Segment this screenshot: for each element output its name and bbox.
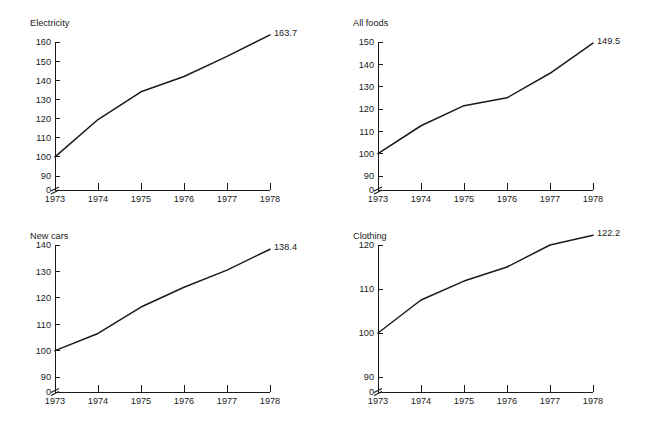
x-tick-label-all-foods-1974: 1974: [411, 194, 431, 204]
y-axis-clothing: 090100110120: [359, 240, 383, 397]
x-axis-all-foods: 197319741975197619771978: [368, 183, 603, 204]
chart-panel-new-cars: New cars 090100110120130140 197319741975…: [0, 217, 323, 433]
y-tick-label-electricity-130: 130: [36, 95, 51, 105]
x-tick-label-clothing-1976: 1976: [497, 396, 517, 406]
y-tick-label-all-foods-140: 140: [359, 60, 374, 70]
end-label-clothing: 122.2: [597, 228, 620, 238]
x-tick-label-electricity-1973: 1973: [45, 194, 65, 204]
y-tick-label-clothing-110: 110: [359, 284, 374, 294]
y-tick-label-new-cars-90: 90: [41, 372, 51, 382]
chart-title-all-foods: All foods: [353, 18, 389, 28]
y-tick-label-all-foods-90: 90: [364, 171, 374, 181]
y-tick-label-electricity-90: 90: [41, 171, 51, 181]
y-tick-label-new-cars-100: 100: [36, 346, 51, 356]
x-tick-label-clothing-1978: 1978: [583, 396, 603, 406]
y-tick-label-electricity-160: 160: [36, 37, 51, 47]
y-tick-label-electricity-110: 110: [36, 133, 51, 143]
x-tick-label-new-cars-1977: 1977: [217, 396, 237, 406]
x-axis-new-cars: 197319741975197619771978: [45, 385, 280, 406]
y-tick-label-new-cars-110: 110: [36, 320, 51, 330]
series-line-all-foods: [378, 43, 593, 154]
y-tick-label-all-foods-110: 110: [359, 127, 374, 137]
series-line-clothing: [378, 235, 593, 333]
end-label-all-foods: 149.5: [597, 36, 620, 46]
x-tick-label-new-cars-1976: 1976: [174, 396, 194, 406]
x-tick-label-all-foods-1976: 1976: [497, 194, 517, 204]
x-tick-label-new-cars-1978: 1978: [260, 396, 280, 406]
x-tick-label-electricity-1976: 1976: [174, 194, 194, 204]
x-tick-label-electricity-1977: 1977: [217, 194, 237, 204]
end-label-new-cars: 138.4: [274, 242, 297, 252]
y-tick-label-electricity-120: 120: [36, 114, 51, 124]
y-tick-label-electricity-100: 100: [36, 152, 51, 162]
y-tick-label-new-cars-130: 130: [36, 267, 51, 277]
chart-svg-electricity: Electricity 090100110120130140150160 197…: [0, 0, 323, 216]
chart-figure: Electricity 090100110120130140150160 197…: [0, 0, 646, 433]
y-axis-all-foods: 090100110120130140150: [359, 37, 383, 195]
x-tick-label-clothing-1975: 1975: [454, 396, 474, 406]
chart-svg-new-cars: New cars 090100110120130140 197319741975…: [0, 217, 323, 433]
x-tick-label-electricity-1978: 1978: [260, 194, 280, 204]
x-tick-label-new-cars-1973: 1973: [45, 396, 65, 406]
chart-panel-clothing: Clothing 090100110120 197319741975197619…: [323, 217, 646, 433]
y-tick-label-all-foods-120: 120: [359, 104, 374, 114]
end-label-electricity: 163.7: [274, 28, 297, 38]
x-tick-label-new-cars-1975: 1975: [131, 396, 151, 406]
chart-svg-all-foods: All foods 090100110120130140150 19731974…: [323, 0, 646, 216]
x-tick-label-clothing-1974: 1974: [411, 396, 431, 406]
y-tick-label-electricity-150: 150: [36, 57, 51, 67]
x-tick-label-electricity-1974: 1974: [88, 194, 108, 204]
y-tick-label-clothing-90: 90: [364, 372, 374, 382]
x-tick-label-all-foods-1973: 1973: [368, 194, 388, 204]
y-tick-label-all-foods-100: 100: [359, 149, 374, 159]
x-tick-label-clothing-1973: 1973: [368, 396, 388, 406]
y-tick-label-all-foods-150: 150: [359, 37, 374, 47]
x-tick-label-all-foods-1975: 1975: [454, 194, 474, 204]
x-axis-electricity: 197319741975197619771978: [45, 183, 280, 204]
y-axis-electricity: 090100110120130140150160: [36, 37, 60, 195]
x-tick-label-all-foods-1978: 1978: [583, 194, 603, 204]
y-axis-new-cars: 090100110120130140: [36, 240, 60, 397]
y-tick-label-new-cars-120: 120: [36, 293, 51, 303]
x-tick-label-clothing-1977: 1977: [540, 396, 560, 406]
series-line-new-cars: [55, 249, 270, 350]
x-axis-clothing: 197319741975197619771978: [368, 385, 603, 406]
y-tick-label-electricity-140: 140: [36, 76, 51, 86]
chart-panel-electricity: Electricity 090100110120130140150160 197…: [0, 0, 323, 216]
x-tick-label-electricity-1975: 1975: [131, 194, 151, 204]
y-tick-label-all-foods-130: 130: [359, 82, 374, 92]
chart-panel-all-foods: All foods 090100110120130140150 19731974…: [323, 0, 646, 216]
x-tick-label-all-foods-1977: 1977: [540, 194, 560, 204]
y-tick-label-clothing-120: 120: [359, 240, 374, 250]
chart-svg-clothing: Clothing 090100110120 197319741975197619…: [323, 217, 646, 433]
chart-title-electricity: Electricity: [30, 18, 70, 28]
y-tick-label-clothing-100: 100: [359, 328, 374, 338]
series-line-electricity: [55, 35, 270, 157]
y-tick-label-new-cars-140: 140: [36, 240, 51, 250]
x-tick-label-new-cars-1974: 1974: [88, 396, 108, 406]
